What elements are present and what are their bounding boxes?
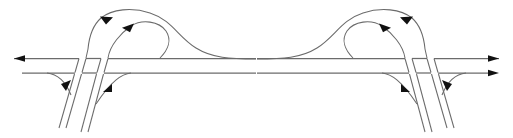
inner-loop-ramp-arrowhead-icon (379, 24, 391, 33)
diagonal-ramp-inner-cross (412, 59, 416, 73)
outer-loop-ramp-arrowhead-icon (400, 17, 413, 25)
offramp-curve-left (47, 73, 71, 95)
outer-loop-ramp-path (257, 10, 427, 59)
inner-loop-ramp (344, 22, 405, 58)
outer-loop-ramp-arrowhead-icon (100, 17, 113, 25)
diagonal-ramp-outer (427, 59, 454, 129)
lower-carriageway-arrowhead-icon (488, 55, 499, 62)
offramp-curve-left (382, 73, 417, 104)
upper-carriageway (14, 55, 256, 62)
inner-loop-ramp (108, 22, 169, 58)
diagonal-ramp-inner (405, 59, 432, 133)
diagonal-ramp-inner (81, 59, 108, 133)
onramp-curve-right-arrowhead-icon (442, 80, 452, 91)
left-panel (14, 10, 256, 132)
upper-carriageway (257, 55, 499, 62)
diagram-canvas: Highway interchange ramp flow diagram Tw… (0, 0, 513, 138)
right-panel (257, 10, 499, 132)
outer-loop-ramp (86, 10, 256, 59)
diagonal-ramp-outer (59, 59, 86, 129)
outer-loop-ramp (257, 10, 427, 59)
diagonal-ramp-inner-path (88, 74, 104, 132)
interchange-diagram: Highway interchange ramp flow diagram Tw… (0, 0, 513, 138)
offramp-curve-left-arrowhead-icon (61, 80, 71, 91)
diagonal-ramp-inner-cross (104, 59, 108, 73)
onramp-curve-right-path (96, 73, 131, 104)
diagonal-ramp-outer-cross (75, 59, 79, 73)
onramp-curve-right (96, 73, 131, 104)
diagonal-ramp-outer-cross (434, 59, 438, 73)
diagonal-ramp-inner-path (410, 74, 426, 132)
onramp-curve-right (442, 73, 466, 95)
outer-loop-ramp-path (86, 10, 256, 59)
diagonal-ramp-inner-path (81, 74, 97, 132)
inner-loop-ramp-path (344, 22, 405, 58)
inner-loop-ramp-arrowhead-icon (122, 24, 134, 33)
diagonal-ramp-outer-cross (82, 59, 86, 73)
inner-loop-ramp-path (108, 22, 169, 58)
diagonal-ramp-outer-cross (427, 59, 431, 73)
diagonal-ramp-inner-path (417, 74, 433, 132)
offramp-curve-left-path (382, 73, 417, 104)
lower-carriageway-arrowhead-icon (488, 70, 499, 77)
diagonal-ramp-inner-cross (405, 59, 409, 73)
upper-carriageway-arrowhead-icon (14, 55, 25, 62)
diagonal-ramp-inner-cross (97, 59, 101, 73)
